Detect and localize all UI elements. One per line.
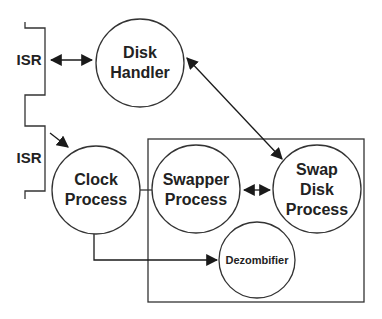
node-label: Dezombifier <box>226 254 290 266</box>
process-diagram: ISR ISR Disk Handler Clock Process Swapp… <box>0 0 382 319</box>
node-label: Disk <box>300 181 334 198</box>
node-label: Disk <box>123 44 157 61</box>
node-swap-disk-process: Swap Disk Process <box>273 145 361 233</box>
node-swapper-process: Swapper Process <box>152 145 240 233</box>
node-clock-process: Clock Process <box>52 146 140 234</box>
edge-isr-clock <box>50 133 68 147</box>
node-label: Process <box>65 191 127 208</box>
node-disk-handler: Disk Handler <box>96 19 184 107</box>
isr-label-bottom: ISR <box>16 149 41 166</box>
node-dezombifier: Dezombifier <box>219 222 295 298</box>
isr-label-top: ISR <box>16 51 41 68</box>
node-label: Process <box>286 201 348 218</box>
node-label: Swapper <box>163 171 230 188</box>
node-label: Clock <box>74 171 118 188</box>
edge-clock-dezombifier <box>94 234 217 260</box>
isr-bracket <box>25 22 45 199</box>
node-label: Swap <box>296 161 338 178</box>
node-label: Process <box>165 191 227 208</box>
edge-disk-handler-swap-disk <box>187 58 282 159</box>
node-label: Handler <box>110 64 170 81</box>
